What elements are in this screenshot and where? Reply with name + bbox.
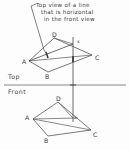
front-view-segment-AX (33, 118, 78, 119)
annotation-line-3: in the front view (44, 16, 95, 23)
technical-drawing-screenshot: Top view of a line that is horizontal in… (0, 0, 130, 150)
front-view-label-B: B (44, 137, 48, 144)
top-view-label-x: x (77, 39, 80, 44)
view-label-front: Front (8, 88, 26, 95)
top-view-horizontal-line-AX (29, 44, 73, 61)
front-view-label-D: D (56, 95, 61, 102)
front-view-label-A: A (25, 114, 29, 121)
annotation-line-1: Top view of a line (36, 2, 90, 9)
view-label-top: Top (8, 73, 20, 80)
top-view-label-C: C (95, 54, 99, 61)
front-view-label-x: x (74, 115, 77, 120)
front-view-label-C: C (93, 131, 97, 138)
front-view-segment-DX (58, 102, 73, 118)
top-view-label-B: B (45, 73, 49, 80)
top-view-label-A: A (22, 58, 26, 65)
top-view-segment-DX (54, 38, 73, 44)
top-view-label-D: D (52, 31, 57, 38)
top-view-quadrilateral (29, 38, 92, 72)
top-view-diagonal-AC (29, 55, 92, 61)
annotation-line-2: that is horizontal (41, 9, 94, 16)
